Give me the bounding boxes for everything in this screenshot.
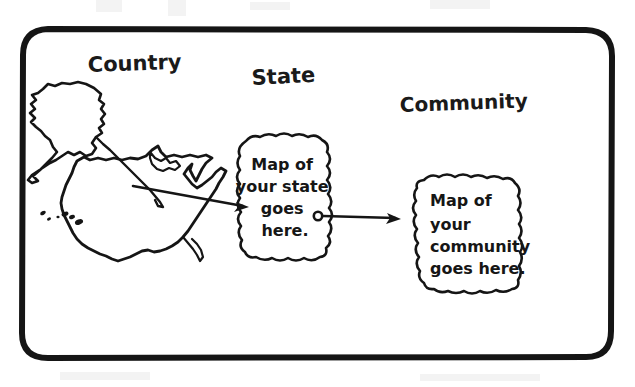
community-blob-line: community [430, 237, 531, 256]
hand-drawn-diagram: Map of your state goes here. Map of your… [0, 0, 635, 387]
contiguous-usa-outline [61, 146, 226, 261]
state-blob-line: goes [261, 199, 304, 218]
heading-state: State [251, 63, 316, 90]
state-blob-line: Map of [251, 155, 314, 174]
community-blob-line: your [430, 215, 471, 234]
alaska-outline [28, 82, 105, 183]
community-blob-line: goes here. [430, 259, 525, 278]
state-blob-text: Map of your state goes here. [236, 155, 334, 240]
state-blob-line: here. [261, 221, 308, 240]
arrow-country-to-state [133, 186, 249, 212]
heading-country: Country [87, 50, 182, 77]
diagram-canvas: Map of your state goes here. Map of your… [0, 0, 635, 387]
alaska-panhandle [96, 137, 163, 207]
heading-community: Community [399, 89, 528, 117]
arrow-state-to-community [314, 212, 401, 224]
united-states-map [28, 82, 226, 261]
community-blob-line: Map of [430, 191, 493, 210]
state-blob-line: your state [236, 177, 329, 196]
florida-detail [183, 237, 203, 261]
community-map-placeholder: Map of your community goes here. [413, 175, 536, 294]
arrow-origin-dot [314, 212, 322, 220]
state-map-placeholder: Map of your state goes here. [236, 134, 334, 261]
